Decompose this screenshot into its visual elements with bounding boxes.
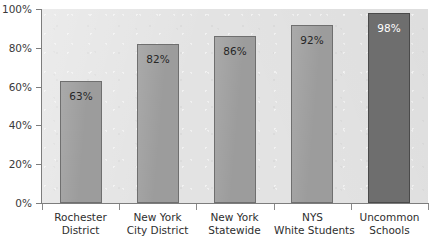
x-axis-category-label-4: UncommonSchools xyxy=(351,211,428,237)
bar-3[interactable]: 92% xyxy=(291,25,333,203)
bar-4[interactable]: 98% xyxy=(368,13,410,203)
bar-value-label-4: 98% xyxy=(369,23,409,34)
y-axis-tick-label: 0% xyxy=(15,198,32,209)
category-label-line2: Statewide xyxy=(196,224,273,237)
chart-title-clipped xyxy=(0,0,445,4)
y-axis-tick-mark xyxy=(36,87,42,88)
x-axis-tick-mark xyxy=(428,204,429,210)
x-axis-category-label-0: RochesterDistrict xyxy=(42,211,119,237)
y-axis-tick-mark xyxy=(36,164,42,165)
bar-2[interactable]: 86% xyxy=(214,36,256,203)
x-axis-tick-mark xyxy=(119,204,120,210)
bar-value-label-2: 86% xyxy=(215,46,255,57)
category-label-line2: City District xyxy=(119,224,196,237)
x-axis-line xyxy=(41,203,429,204)
y-axis-tick-label: 80% xyxy=(9,43,32,54)
category-label-line1: New York xyxy=(133,211,181,223)
y-axis-tick-label: 60% xyxy=(9,82,32,93)
y-axis-tick-mark xyxy=(36,9,42,10)
category-label-line2: White Students xyxy=(274,224,351,237)
category-label-line2: District xyxy=(42,224,119,237)
category-label-line1: NYS xyxy=(302,211,323,223)
x-axis-category-label-1: New YorkCity District xyxy=(119,211,196,237)
y-axis-tick-mark xyxy=(36,125,42,126)
category-label-line1: Rochester xyxy=(54,211,107,223)
y-axis-tick-label: 100% xyxy=(2,4,32,15)
category-label-line1: New York xyxy=(210,211,258,223)
bar-chart: 63%82%86%92%98% 0%20%40%60%80%100%Roches… xyxy=(0,0,445,246)
x-axis-tick-mark xyxy=(274,204,275,210)
y-axis-tick-label: 40% xyxy=(9,120,32,131)
bar-1[interactable]: 82% xyxy=(137,44,179,203)
x-axis-category-label-3: NYSWhite Students xyxy=(274,211,351,237)
y-axis-tick-mark xyxy=(36,48,42,49)
bar-0[interactable]: 63% xyxy=(60,81,102,203)
y-axis-line xyxy=(41,9,42,204)
x-axis-tick-mark-origin xyxy=(42,204,43,210)
category-label-line1: Uncommon xyxy=(359,211,419,223)
y-axis-tick-label: 20% xyxy=(9,159,32,170)
x-axis-tick-mark xyxy=(196,204,197,210)
bar-value-label-3: 92% xyxy=(292,35,332,46)
x-axis-category-label-2: New YorkStatewide xyxy=(196,211,273,237)
bar-value-label-1: 82% xyxy=(138,54,178,65)
x-axis-tick-mark xyxy=(351,204,352,210)
category-label-line2: Schools xyxy=(351,224,428,237)
bar-value-label-0: 63% xyxy=(61,91,101,102)
